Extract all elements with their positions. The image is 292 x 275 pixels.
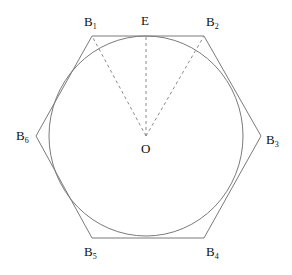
vertex-label-b6: B6 — [16, 128, 29, 145]
dashed-segment-o-b1 — [92, 36, 146, 136]
vertex-label-b1: B1 — [84, 14, 97, 31]
hexagon-diagram: B1B2B3B4B5B6EO — [0, 0, 292, 275]
vertex-label-b4: B4 — [206, 244, 219, 261]
vertex-label-b2: B2 — [206, 14, 219, 31]
diagram-canvas: B1B2B3B4B5B6EO — [0, 0, 292, 275]
dashed-segment-o-b2 — [146, 36, 204, 136]
hexagon-outline — [36, 36, 261, 238]
center-label: O — [141, 141, 150, 156]
vertex-label-b3: B3 — [266, 132, 279, 149]
vertex-label-b5: B5 — [84, 244, 97, 261]
tangent-point-label: E — [141, 13, 149, 28]
